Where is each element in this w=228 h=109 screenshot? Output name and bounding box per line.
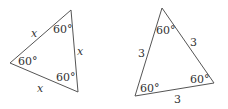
left-angle-top-label: 60° xyxy=(53,23,73,36)
left-side-right-label: x xyxy=(77,45,84,58)
diagram-canvas: x x x 60° 60° 60° 3 3 3 60° 60° 60° xyxy=(0,0,228,109)
left-triangle: x x x 60° 60° 60° xyxy=(10,10,84,95)
left-angle-left-label: 60° xyxy=(18,55,38,68)
right-triangle: 3 3 3 60° 60° 60° xyxy=(135,8,214,106)
left-side-bottom-label: x xyxy=(37,82,44,95)
left-side-top-label: x xyxy=(31,27,38,40)
right-side-left-label: 3 xyxy=(138,47,145,60)
right-side-right-label: 3 xyxy=(190,36,197,49)
right-angle-right-label: 60° xyxy=(190,73,210,86)
right-side-bottom-label: 3 xyxy=(174,93,181,106)
left-angle-bottom-label: 60° xyxy=(56,71,76,84)
right-angle-top-label: 60° xyxy=(156,24,176,37)
right-angle-left-label: 60° xyxy=(140,82,160,95)
